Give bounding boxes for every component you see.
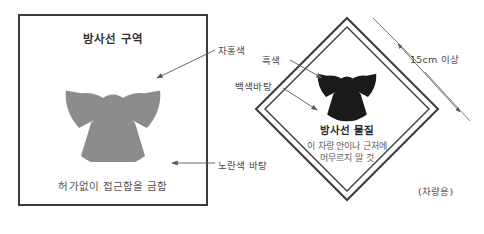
callout-label-yellow-background: 노란색 바탕 [218,158,267,172]
area-sign-footer-text: 허가없이 접근함을 금함 [20,178,206,193]
callout-label-black: 흑색 [262,53,280,67]
placard-sub-line-1: 이 차량 안이나 근처에 [307,140,388,151]
radiation-trefoil-icon [61,66,165,162]
radioactive-material-placard: 방사선 물질 이 차량 안이나 근처에 머무르지 말 것 [252,14,442,204]
radiation-area-sign: 방사선 구역 허가없이 접근함을 금함 [18,14,208,206]
callout-label-white-background: 백색바탕 [235,79,272,93]
placard-title: 방사선 물질 [320,124,374,136]
diagram-canvas: 방사선 구역 허가없이 접근함을 금함 [0,0,484,234]
callout-label-magenta: 자홍색 [218,43,246,57]
callout-label-size: 15cm 이상 [410,52,459,66]
callout-label-vehicle-use: (차량용) [418,184,453,198]
area-sign-title: 방사선 구역 [20,30,206,46]
placard-sub-line-2: 머무르지 말 것 [320,152,374,163]
